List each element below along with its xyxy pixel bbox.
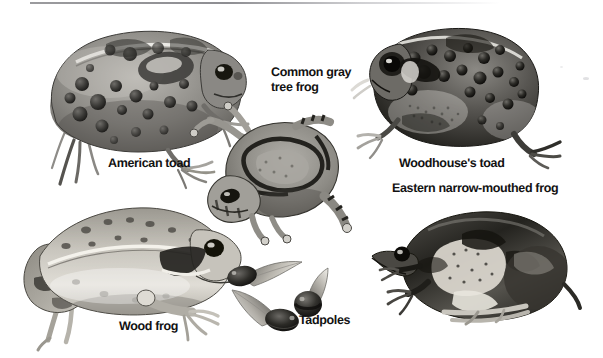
gray-tree-frog-upper-limb-banding [296,115,330,126]
figure-woodhouses-toad [362,16,576,174]
wood-frog-eye [204,239,224,257]
gray-tree-frog-hind-limb [324,196,352,233]
american-toad-eye [215,64,233,80]
label-wood-frog: Wood frog [119,319,178,334]
tadpole-eye [232,271,237,275]
paper-speck [583,77,589,80]
woodhouses-toad-hind-foot [514,134,560,168]
narrow-mouthed-frog-eye-highlight [397,250,403,254]
narrow-mouthed-frog-eye [394,247,410,262]
label-eastern-narrow-mouthed-frog: Eastern narrow-mouthed frog [392,181,558,196]
woodhouses-toad-front-limb [352,80,370,98]
label-american-toad: American toad [108,156,190,171]
american-toad-eye-highlight [218,66,225,71]
gray-tree-frog-limbs-back [190,102,248,137]
amphibian-plate: American toad Common gray tree frog Wood… [0,0,603,358]
label-tadpoles: Tadpoles [299,313,350,328]
woodhouses-toad-front-foot [358,120,398,158]
figure-eastern-narrow-mouthed-frog [358,192,584,348]
gray-tree-frog-front-limb [252,216,291,245]
woodhouses-toad-eye [384,56,401,72]
wood-frog-eye-highlight [207,242,214,247]
wood-frog-elbow [137,290,155,306]
label-woodhouses-toad: Woodhouse's toad [399,156,504,171]
tadpole-eye [299,297,304,301]
label-common-gray-tree-frog: Common gray tree frog [271,65,351,94]
top-rule-divider [30,2,500,4]
woodhouses-toad-eye-highlight [386,59,392,63]
